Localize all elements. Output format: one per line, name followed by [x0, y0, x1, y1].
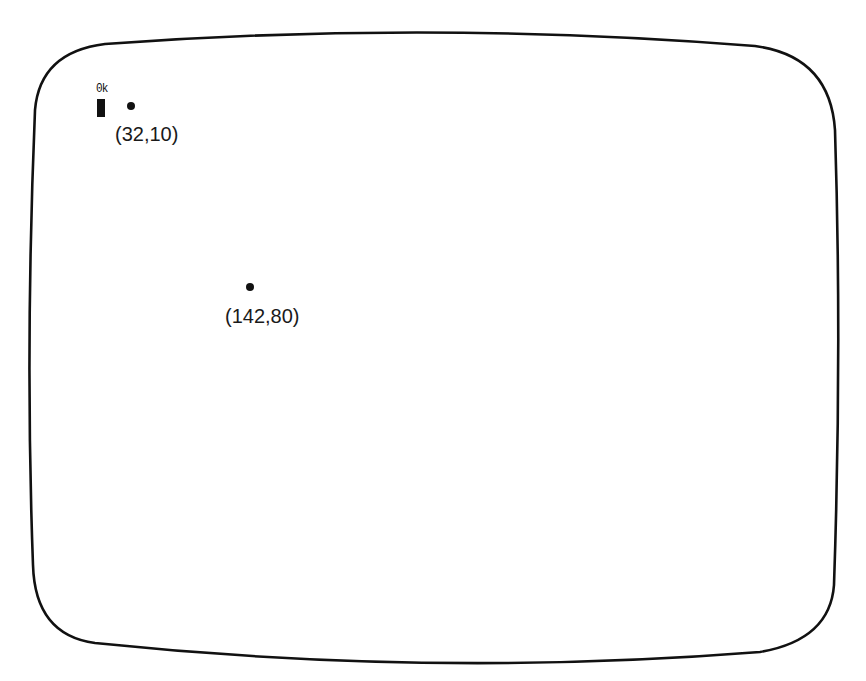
point-label-1: (32,10) [115, 123, 178, 145]
ok-prompt: 0k [96, 82, 108, 95]
plot-point-1 [127, 102, 135, 110]
point-label-2: (142,80) [225, 305, 300, 327]
text-cursor-icon [97, 99, 105, 117]
plot-point-2 [246, 283, 254, 291]
